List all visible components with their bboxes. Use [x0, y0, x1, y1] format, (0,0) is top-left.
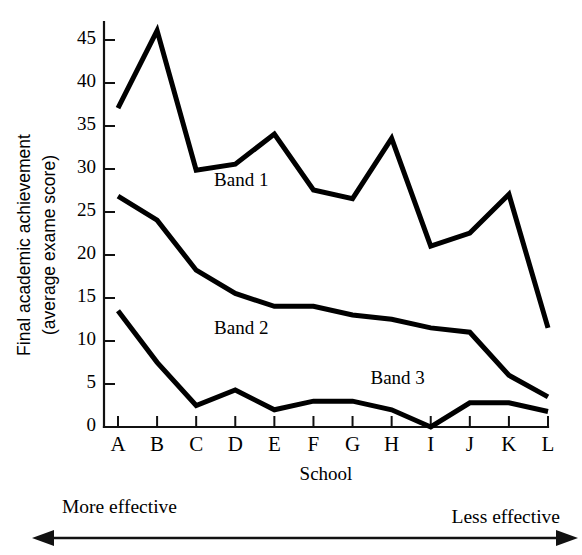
- chart-svg: Final academic achievement (average exam…: [0, 0, 582, 555]
- x-tick-label-D: D: [228, 432, 243, 456]
- y-tick-label-35: 35: [77, 113, 96, 134]
- x-axis-title: School: [300, 463, 353, 484]
- x-tick-label-C: C: [189, 432, 203, 456]
- y-tick-label-10: 10: [77, 328, 96, 349]
- y-tick-label-40: 40: [77, 70, 96, 91]
- x-axis-ticks: ABCDEFGHIJKL: [110, 416, 554, 456]
- y-tick-label-25: 25: [77, 199, 96, 220]
- y-tick-label-20: 20: [77, 242, 96, 263]
- y-tick-label-0: 0: [87, 414, 97, 435]
- x-tick-label-K: K: [501, 432, 516, 456]
- y-axis-label-line1: Final academic achievement: [14, 134, 34, 356]
- series-line-band-1: [118, 31, 548, 328]
- y-tick-label-30: 30: [77, 156, 96, 177]
- x-tick-label-F: F: [308, 432, 320, 456]
- x-tick-label-B: B: [150, 432, 164, 456]
- band-3-label: Band 3: [370, 367, 424, 388]
- x-tick-label-G: G: [345, 432, 360, 456]
- y-axis-ticks: 0 5 10 15 20 25 30 35 40 45: [77, 27, 115, 435]
- y-axis-label-line2: (average exame score): [39, 155, 59, 335]
- series-line-band-2: [118, 196, 548, 397]
- x-tick-label-A: A: [110, 432, 126, 456]
- y-tick-label-15: 15: [77, 285, 96, 306]
- series-annotations: Band 1Band 2Band 3: [214, 169, 425, 388]
- x-tick-label-I: I: [427, 432, 434, 456]
- less-effective-label: Less effective: [452, 506, 560, 527]
- more-effective-label: More effective: [62, 496, 177, 517]
- y-tick-label-5: 5: [87, 371, 97, 392]
- data-series-group: [118, 31, 548, 427]
- chart-figure: Final academic achievement (average exam…: [0, 0, 582, 555]
- x-tick-label-E: E: [268, 432, 281, 456]
- direction-arrow-head-right: [556, 530, 578, 546]
- y-axis-label: Final academic achievement (average exam…: [14, 134, 59, 356]
- direction-arrow-head-left: [32, 530, 54, 546]
- series-line-band-3: [118, 311, 548, 427]
- effectiveness-direction-annotation: More effective Less effective: [32, 496, 578, 546]
- x-tick-label-H: H: [384, 432, 399, 456]
- band-2-label: Band 2: [214, 317, 268, 338]
- band-1-label: Band 1: [214, 169, 268, 190]
- y-tick-label-45: 45: [77, 27, 96, 48]
- x-tick-label-J: J: [466, 432, 474, 456]
- x-tick-label-L: L: [542, 432, 555, 456]
